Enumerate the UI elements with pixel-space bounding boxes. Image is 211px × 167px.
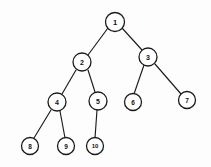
node-circle-10[interactable] <box>87 138 104 155</box>
node-circle-1[interactable] <box>106 13 125 32</box>
tree-edge-n3-n6 <box>134 65 144 94</box>
node-circle-4[interactable] <box>48 93 66 111</box>
tree-node-7[interactable]: 7 <box>179 92 196 109</box>
node-circle-7[interactable] <box>179 92 196 109</box>
tree-node-4[interactable]: 4 <box>48 93 66 111</box>
tree-edge-n3-n7 <box>155 64 181 94</box>
tree-edge-n4-n8 <box>34 110 51 138</box>
tree-node-3[interactable]: 3 <box>139 48 157 66</box>
tree-node-2[interactable]: 2 <box>73 53 91 71</box>
tree-node-9[interactable]: 9 <box>58 138 75 155</box>
tree-node-6[interactable]: 6 <box>125 94 142 111</box>
tree-edge-n2-n4 <box>62 70 76 94</box>
tree-node-5[interactable]: 5 <box>89 92 107 110</box>
node-circle-3[interactable] <box>139 48 157 66</box>
node-circle-9[interactable] <box>58 138 75 155</box>
node-circle-8[interactable] <box>22 138 39 155</box>
node-circle-2[interactable] <box>73 53 91 71</box>
tree-edge-n5-n10 <box>95 110 97 138</box>
tree-edge-n2-n5 <box>88 70 95 92</box>
tree-node-8[interactable]: 8 <box>22 138 39 155</box>
node-circle-5[interactable] <box>89 92 107 110</box>
tree-node-1[interactable]: 1 <box>106 13 125 32</box>
tree-node-10[interactable]: 10 <box>87 138 104 155</box>
node-circle-6[interactable] <box>125 94 142 111</box>
tree-edges-group <box>34 28 181 138</box>
tree-nodes-group: 12345678910 <box>22 13 196 155</box>
tree-canvas: 12345678910 <box>0 0 211 167</box>
tree-edge-n4-n9 <box>60 111 65 138</box>
tree-edge-n1-n2 <box>88 28 108 55</box>
tree-edge-n1-n3 <box>122 28 142 50</box>
binary-tree-diagram: 12345678910 <box>0 0 211 167</box>
